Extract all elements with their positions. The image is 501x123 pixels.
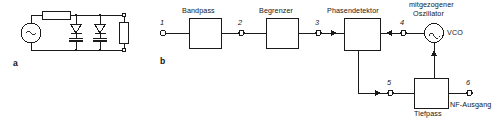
node-4-terminal [401, 30, 406, 35]
oscillator-caption-line1: mitgezogener [409, 1, 454, 9]
node-5-label: 5 [387, 78, 391, 87]
junction-dot-b2-bottom [98, 48, 101, 51]
arrow-up-to-vco [431, 50, 437, 56]
node-6-label: 6 [466, 78, 470, 87]
node-6-terminal [467, 90, 472, 95]
figure-root: a b Bandpass Begrenzer Phasendetektor Ti… [0, 0, 501, 123]
diode-2-triangle [95, 24, 106, 33]
begrenzer-block [266, 18, 298, 48]
node-2-terminal [239, 30, 244, 35]
phasendetektor-label: Phasendetektor [327, 7, 379, 15]
node-3-terminal [316, 30, 321, 35]
vco-abbrev-label: VCO [447, 29, 463, 37]
bandpass-label: Bandpass [182, 7, 215, 15]
tiefpass-block [414, 78, 448, 108]
arrow-into-node-5 [375, 90, 381, 96]
begrenzer-label: Begrenzer [259, 7, 293, 15]
junction-dot-b1-bottom [74, 48, 77, 51]
node-3-label: 3 [315, 18, 319, 27]
oscillator-caption-line2: Oszillator [413, 10, 444, 18]
terminal-top [122, 13, 126, 17]
junction-dot-b1-top [74, 13, 77, 16]
node-2-label: 2 [238, 18, 242, 27]
series-resistor-body [42, 11, 70, 19]
junction-dot-b2-top [98, 13, 101, 16]
node-4-label: 4 [400, 18, 404, 27]
node-1-label: 1 [160, 18, 164, 27]
bandpass-block [189, 18, 221, 48]
tiefpass-label: Tiefpass [414, 110, 442, 118]
node-5-terminal [388, 90, 393, 95]
diode-1-triangle [71, 24, 82, 33]
arrow-into-phasendetektor-right [386, 30, 392, 36]
load-resistor-body [120, 22, 129, 43]
schematic-canvas [0, 0, 501, 123]
vco-body [425, 24, 444, 43]
panel-a-key: a [13, 58, 18, 68]
terminal-bottom [122, 48, 126, 52]
panel-b-key: b [160, 56, 165, 66]
arrow-into-phasendetektor [331, 30, 337, 36]
nf-ausgang-label: NF-Ausgang [450, 101, 491, 109]
node-1-terminal [160, 30, 165, 35]
phasendetektor-block [344, 18, 380, 50]
